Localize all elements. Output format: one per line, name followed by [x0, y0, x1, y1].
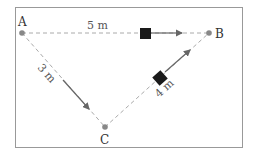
length-ab: 5 m	[87, 19, 108, 32]
length-ac: 3 m	[35, 61, 59, 86]
block-on-ab	[140, 28, 151, 39]
arrow-cb	[165, 50, 190, 72]
point-a	[19, 30, 25, 36]
label-b: B	[215, 27, 224, 41]
label-c: C	[100, 133, 109, 147]
point-c	[102, 124, 108, 130]
label-a: A	[17, 15, 27, 29]
arrow-ac	[63, 80, 89, 109]
point-b	[206, 30, 212, 36]
triangle-diagram: A B C 5 m 3 m 4 m	[0, 0, 254, 157]
